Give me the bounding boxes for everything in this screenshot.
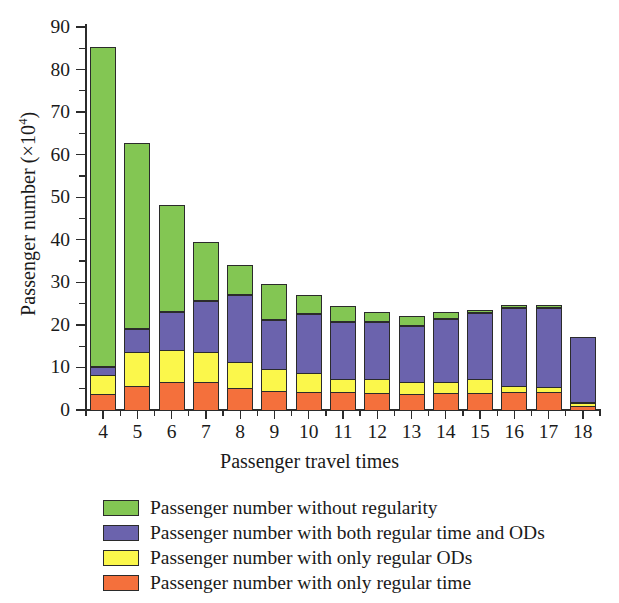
bar-segment xyxy=(227,265,253,295)
y-tick-80 xyxy=(76,69,85,70)
x-tick-12 xyxy=(377,410,378,419)
y-tick-minor-5 xyxy=(79,388,85,389)
x-tick-18 xyxy=(582,410,583,419)
y-tick-60 xyxy=(76,154,85,155)
y-tick-minor-65 xyxy=(79,133,85,134)
x-tick-9 xyxy=(274,410,275,419)
legend-item-2[interactable]: Passenger number with only regular ODs xyxy=(103,546,545,569)
bar-segment xyxy=(159,205,185,312)
bar-13[interactable] xyxy=(399,316,425,410)
bar-segment xyxy=(467,313,493,381)
x-tick-10 xyxy=(308,410,309,419)
x-tick-minor xyxy=(428,410,429,416)
y-tick-0 xyxy=(76,409,85,410)
y-tick-minor-85 xyxy=(79,48,85,49)
x-tick-minor xyxy=(257,410,258,416)
x-tick-minor xyxy=(462,410,463,416)
x-tick-minor xyxy=(291,410,292,416)
bar-16[interactable] xyxy=(501,305,527,410)
legend-item-1[interactable]: Passenger number with both regular time … xyxy=(103,521,545,544)
bar-segment xyxy=(296,373,322,393)
bar-7[interactable] xyxy=(193,242,219,410)
bar-segment xyxy=(159,312,185,351)
y-tick-label-30: 30 xyxy=(0,272,70,292)
bar-segment xyxy=(159,350,185,384)
bar-segment xyxy=(296,314,322,374)
bar-segment xyxy=(193,352,219,384)
y-tick-70 xyxy=(76,111,85,112)
y-tick-label-50: 50 xyxy=(0,187,70,207)
x-tick-minor xyxy=(325,410,326,416)
bar-segment xyxy=(261,369,287,392)
bar-segment xyxy=(124,386,150,412)
x-tick-17 xyxy=(548,410,549,419)
x-tick-minor xyxy=(85,410,86,416)
bar-segment xyxy=(90,375,116,395)
bar-9[interactable] xyxy=(261,284,287,410)
y-tick-label-80: 80 xyxy=(0,60,70,80)
bar-17[interactable] xyxy=(536,305,562,410)
legend-swatch-icon xyxy=(103,525,139,541)
bar-segment xyxy=(193,242,219,301)
x-tick-15 xyxy=(479,410,480,419)
y-tick-40 xyxy=(76,239,85,240)
legend-swatch-icon xyxy=(103,575,139,591)
y-tick-20 xyxy=(76,324,85,325)
x-tick-7 xyxy=(205,410,206,419)
x-tick-minor xyxy=(154,410,155,416)
chart-legend: Passenger number without regularityPasse… xyxy=(103,496,545,594)
bar-segment xyxy=(330,322,356,379)
bar-segment xyxy=(467,393,493,411)
bar-segment xyxy=(193,382,219,411)
bar-segment xyxy=(296,295,322,315)
bar-segment xyxy=(227,362,253,390)
bar-8[interactable] xyxy=(227,265,253,410)
x-tick-5 xyxy=(137,410,138,419)
bar-4[interactable] xyxy=(90,47,116,410)
x-tick-14 xyxy=(445,410,446,419)
x-tick-minor xyxy=(394,410,395,416)
y-tick-minor-55 xyxy=(79,175,85,176)
bar-segment xyxy=(433,393,459,411)
y-tick-90 xyxy=(76,26,85,27)
bar-segment xyxy=(261,320,287,370)
x-tick-13 xyxy=(411,410,412,419)
y-tick-label-20: 20 xyxy=(0,315,70,335)
y-tick-minor-75 xyxy=(79,90,85,91)
y-tick-label-60: 60 xyxy=(0,145,70,165)
y-tick-label-40: 40 xyxy=(0,230,70,250)
x-tick-minor xyxy=(531,410,532,416)
bar-15[interactable] xyxy=(467,310,493,410)
bar-segment xyxy=(124,143,150,329)
bar-18[interactable] xyxy=(570,337,596,410)
bar-segment xyxy=(124,352,150,387)
legend-item-label: Passenger number with only regular time xyxy=(150,573,471,593)
bar-segment xyxy=(193,301,219,353)
bar-5[interactable] xyxy=(124,143,150,410)
x-tick-minor xyxy=(565,410,566,416)
x-tick-16 xyxy=(514,410,515,419)
bar-segment xyxy=(90,47,116,367)
bar-segment xyxy=(330,306,356,322)
chart-figure: Passenger number (×104) 0102030405060708… xyxy=(0,0,619,603)
bar-segment xyxy=(536,392,562,411)
legend-item-0[interactable]: Passenger number without regularity xyxy=(103,496,545,519)
x-tick-minor xyxy=(188,410,189,416)
x-tick-label-18: 18 xyxy=(563,421,603,443)
bar-10[interactable] xyxy=(296,295,322,410)
legend-item-3[interactable]: Passenger number with only regular time xyxy=(103,571,545,594)
bar-segment xyxy=(364,322,390,380)
bar-12[interactable] xyxy=(364,312,390,410)
bar-segment xyxy=(261,284,287,320)
bar-6[interactable] xyxy=(159,205,185,410)
bar-segment xyxy=(90,394,116,411)
bar-segment xyxy=(159,382,185,411)
bar-11[interactable] xyxy=(330,306,356,410)
bar-14[interactable] xyxy=(433,312,459,410)
x-tick-minor xyxy=(359,410,360,416)
x-tick-minor xyxy=(497,410,498,416)
x-tick-11 xyxy=(342,410,343,419)
y-tick-30 xyxy=(76,282,85,283)
y-tick-minor-25 xyxy=(79,303,85,304)
x-axis-title: Passenger travel times xyxy=(0,450,619,473)
